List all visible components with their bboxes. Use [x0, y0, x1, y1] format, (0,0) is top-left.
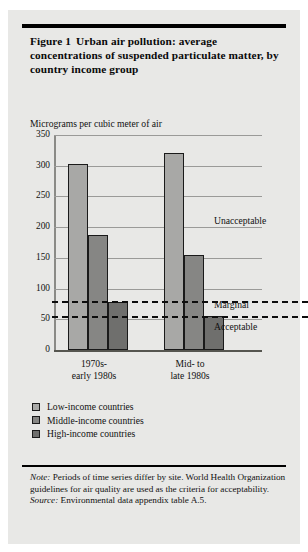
figure-panel: Figure 1Urban air pollution: average con…: [8, 10, 300, 544]
source-prefix: Source:: [30, 495, 58, 505]
x-axis-label-line: 1970s-: [44, 358, 144, 370]
chart-plot-area: 050100150200250300350: [54, 135, 262, 350]
x-axis-label-line: Mid- to: [140, 358, 240, 370]
bar-middle-income-group1: [88, 235, 108, 350]
legend-item: High-income countries: [32, 427, 144, 441]
zone-label-unacceptable: Unacceptable: [214, 215, 266, 226]
gridline: [54, 135, 262, 136]
figure-number: Figure 1: [30, 35, 71, 47]
reference-line-acceptable: [52, 316, 308, 318]
y-axis-title: Micrograms per cubic meter of air: [30, 118, 162, 129]
zone-label-acceptable: Acceptable: [214, 321, 257, 332]
figure-notes: Note: Periods of time series differ by s…: [30, 472, 286, 507]
y-axis-tick-label: 300: [36, 161, 50, 170]
legend-item: Middle-income countries: [32, 414, 144, 428]
y-axis-tick-label: 350: [36, 130, 50, 139]
legend-label-middle-income: Middle-income countries: [47, 415, 144, 426]
legend-swatch-low-income: [32, 403, 40, 411]
legend-label-high-income: High-income countries: [47, 428, 135, 439]
x-axis-label-line: early 1980s: [44, 370, 144, 382]
y-axis-tick-label: 100: [36, 284, 50, 293]
note-line: Note: Periods of time series differ by s…: [30, 472, 286, 495]
legend-swatch-middle-income: [32, 416, 40, 424]
bottom-rule: [22, 465, 286, 467]
figure-title: Figure 1Urban air pollution: average con…: [30, 34, 284, 77]
note-prefix: Note:: [30, 472, 50, 482]
bar-low-income-group1: [68, 164, 88, 350]
y-axis-tick-label: 0: [45, 345, 50, 354]
zone-label-marginal: Marginal: [214, 299, 249, 310]
y-axis-tick-label: 150: [36, 253, 50, 262]
y-axis-tick-label: 250: [36, 192, 50, 201]
bar-low-income-group2: [164, 153, 184, 350]
chart-legend: Low-income countries Middle-income count…: [32, 400, 144, 441]
source-line: Source: Environmental data appendix tabl…: [30, 495, 286, 507]
legend-swatch-high-income: [32, 430, 40, 438]
y-axis-tick-label: 200: [36, 222, 50, 231]
top-rule: [22, 24, 286, 28]
reference-line-marginal: [52, 301, 308, 303]
x-axis-group-label-2: Mid- tolate 1980s: [140, 358, 240, 381]
bar-high-income-group1: [108, 302, 128, 350]
y-axis-tick-label: 50: [41, 315, 50, 324]
legend-item: Low-income countries: [32, 400, 144, 414]
x-axis-label-line: late 1980s: [140, 370, 240, 382]
x-axis-line: [54, 350, 262, 352]
x-axis-group-label-1: 1970s-early 1980s: [44, 358, 144, 381]
note-text: Periods of time series differ by site. W…: [30, 472, 285, 494]
legend-label-low-income: Low-income countries: [47, 401, 134, 412]
source-text: Environmental data appendix table A.5.: [58, 495, 206, 505]
